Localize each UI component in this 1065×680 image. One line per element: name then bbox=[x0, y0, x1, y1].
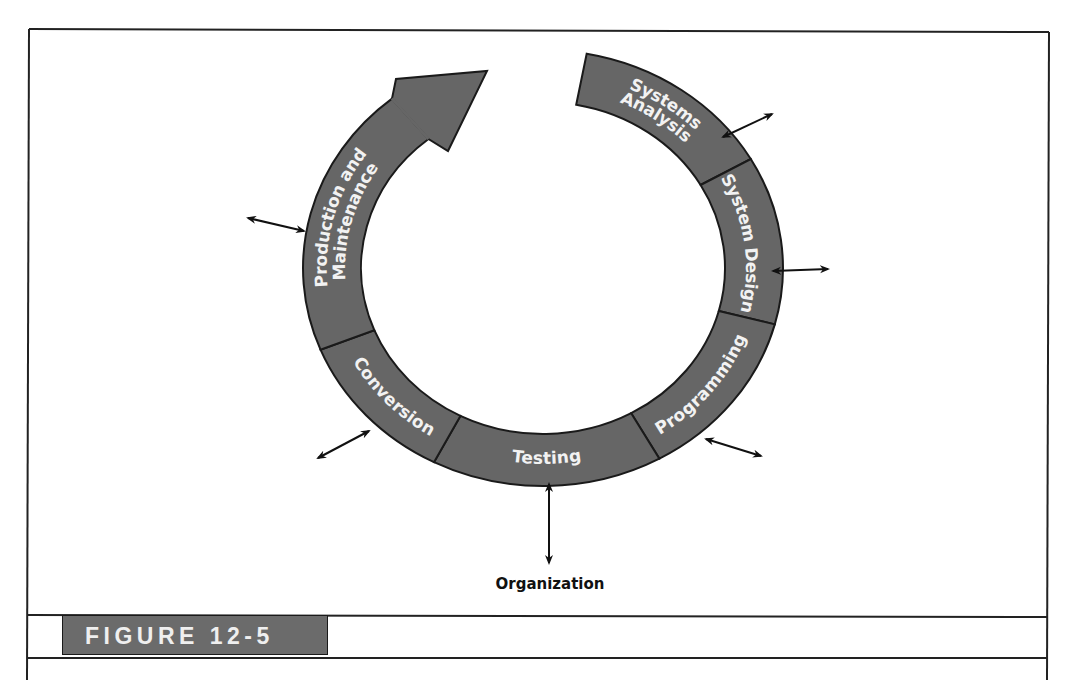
stage-label-testing: Testing bbox=[511, 445, 582, 468]
figure-caption-label: FIGURE 12-5 bbox=[62, 615, 328, 655]
organization-arrow-production-and-maintenance bbox=[248, 218, 304, 231]
organization-arrow-programming bbox=[706, 439, 761, 456]
organization-arrow-conversion bbox=[318, 431, 369, 458]
development-cycle-ring bbox=[303, 54, 783, 486]
organization-arrow-systems-analysis bbox=[723, 114, 772, 137]
organization-label: Organization bbox=[470, 575, 630, 593]
